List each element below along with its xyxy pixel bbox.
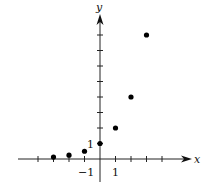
y-axis-label: y bbox=[95, 1, 103, 14]
x-tick-label-1: 1 bbox=[112, 166, 119, 179]
data-point bbox=[144, 32, 149, 37]
axes bbox=[18, 14, 192, 182]
scatter-chart: x y −1 1 1 bbox=[0, 0, 208, 189]
x-axis-label: x bbox=[194, 153, 201, 166]
data-point bbox=[66, 153, 71, 158]
data-point bbox=[51, 154, 56, 159]
x-tick-label-neg1: −1 bbox=[78, 166, 94, 179]
data-point bbox=[113, 125, 118, 130]
data-point bbox=[97, 141, 102, 146]
data-point bbox=[128, 94, 133, 99]
y-tick-label-1: 1 bbox=[87, 138, 94, 151]
